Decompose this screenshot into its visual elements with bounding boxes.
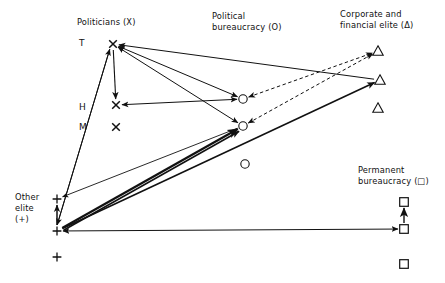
label-other-elite-line1: Other bbox=[15, 192, 39, 203]
label-politicians: Politicians (X) bbox=[77, 17, 136, 28]
node-triangle-tri-low bbox=[373, 103, 383, 112]
edge-o-top-to-tri-top bbox=[249, 53, 373, 97]
edge-layer bbox=[57, 45, 404, 231]
label-corporate-elite-line2: financial elite (Δ) bbox=[340, 20, 413, 31]
node-plus-plus-mid bbox=[53, 227, 62, 236]
edge-o-mid-to-plus-top bbox=[63, 128, 238, 197]
axis-level-m: M bbox=[79, 122, 87, 133]
axis-level-h: H bbox=[79, 102, 86, 113]
edge-plus-mid-to-tri-mid bbox=[62, 83, 374, 229]
diagram-canvas bbox=[0, 0, 445, 283]
axis-level-t: T bbox=[79, 38, 85, 49]
node-plus-plus-top bbox=[53, 195, 62, 204]
edge-x-top-to-x-mid bbox=[113, 50, 115, 99]
node-square-sq-mid bbox=[400, 225, 409, 234]
diagram-figure: Politicians (X) Political bureaucracy (O… bbox=[0, 0, 445, 283]
label-other-elite-line2: elite bbox=[15, 203, 34, 214]
label-political-bureaucracy-line1: Political bbox=[212, 11, 245, 22]
node-plus-plus-low bbox=[53, 253, 62, 262]
edge-plus-mid-to-o-mid bbox=[62, 129, 238, 228]
edge-plus-mid-to-x-top bbox=[57, 49, 110, 225]
label-corporate-elite-line1: Corporate and bbox=[340, 9, 402, 20]
edge-x-mid-to-o-top bbox=[122, 99, 237, 104]
label-permanent-bureaucracy-line1: Permanent bbox=[358, 165, 404, 176]
edge-plus-mid-to-sq-mid bbox=[63, 229, 398, 231]
node-x-x-low bbox=[112, 123, 120, 131]
node-triangle-tri-top bbox=[373, 46, 383, 55]
label-other-elite-line3: (+) bbox=[15, 214, 29, 225]
node-circle-o-low bbox=[241, 160, 249, 168]
edge-x-top-to-o-top bbox=[119, 46, 238, 96]
node-circle-o-top bbox=[239, 95, 247, 103]
node-layer bbox=[53, 40, 409, 268]
node-x-x-top bbox=[109, 40, 117, 48]
label-permanent-bureaucracy-line2: bureaucracy (□) bbox=[358, 176, 429, 187]
node-square-sq-top bbox=[400, 198, 409, 207]
node-circle-o-mid bbox=[239, 122, 247, 130]
node-triangle-tri-mid bbox=[375, 75, 385, 84]
node-square-sq-low bbox=[400, 260, 409, 269]
edge-x-top-to-tri-mid bbox=[119, 45, 374, 79]
node-x-x-mid bbox=[112, 101, 120, 109]
label-political-bureaucracy-line2: bureaucracy (O) bbox=[212, 22, 282, 33]
